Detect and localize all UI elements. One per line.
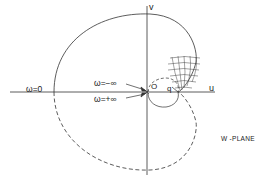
- grid-mesh: [168, 56, 200, 90]
- nyquist-curve-upper: [54, 14, 196, 92]
- w-plane-diagram: v u ω=0 ω=−∞ ω=+∞ O q W -PLANE: [0, 0, 271, 180]
- inner-loop-lower: [148, 92, 178, 107]
- omega-zero-label: ω=0: [26, 85, 42, 94]
- w-plane-label: W -PLANE: [221, 136, 255, 143]
- u-axis-label: u: [209, 84, 214, 93]
- point-q-label: q: [167, 85, 171, 93]
- omega-pos-inf-label: ω=+∞: [94, 95, 117, 104]
- omega-neg-inf-label: ω=−∞: [94, 79, 117, 88]
- origin-label: O: [151, 83, 157, 91]
- v-axis-label: v: [149, 3, 154, 12]
- nyquist-curve-lower: [54, 92, 196, 170]
